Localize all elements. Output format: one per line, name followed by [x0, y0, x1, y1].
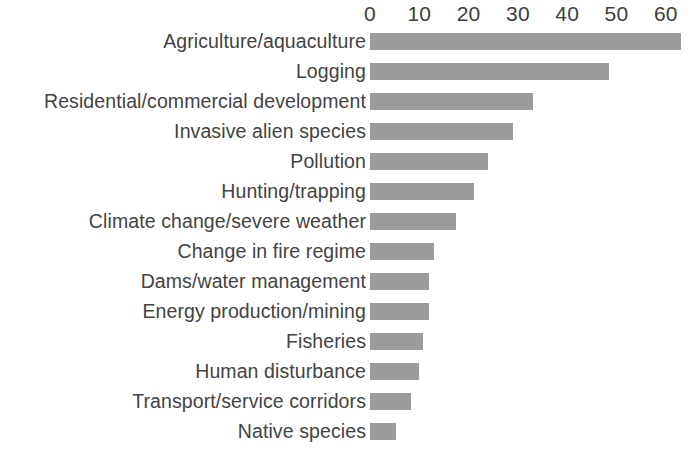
bar: [370, 333, 423, 350]
bar-row: Hunting/trapping: [0, 178, 691, 208]
category-label: Energy production/mining: [142, 298, 366, 328]
x-axis-tick-label: 30: [506, 2, 530, 26]
category-label: Transport/service corridors: [132, 388, 366, 418]
category-label: Residential/commercial development: [44, 88, 366, 118]
bar-row: Logging: [0, 58, 691, 88]
category-label: Hunting/trapping: [221, 178, 366, 208]
bar-row: Energy production/mining: [0, 298, 691, 328]
x-axis-tick-label: 40: [555, 2, 579, 26]
x-axis: 0102030405060: [0, 0, 691, 28]
bar: [370, 93, 533, 110]
bar-row: Fisheries: [0, 328, 691, 358]
category-label: Agriculture/aquaculture: [163, 28, 366, 58]
bar: [370, 63, 609, 80]
x-axis-tick-label: 0: [364, 2, 376, 26]
bar-row: Dams/water management: [0, 268, 691, 298]
x-axis-tick-label: 20: [457, 2, 481, 26]
bar: [370, 363, 419, 380]
bar: [370, 303, 429, 320]
bar: [370, 183, 474, 200]
bar: [370, 33, 681, 50]
bar: [370, 243, 434, 260]
bar-row: Transport/service corridors: [0, 388, 691, 418]
category-label: Pollution: [290, 148, 366, 178]
bar-row: Residential/commercial development: [0, 88, 691, 118]
category-label: Logging: [296, 58, 366, 88]
bar: [370, 153, 488, 170]
x-axis-tick-label: 50: [605, 2, 629, 26]
bar-chart: 0102030405060 Agriculture/aquacultureLog…: [0, 0, 691, 462]
bar-row: Native species: [0, 418, 691, 448]
bar: [370, 213, 456, 230]
category-label: Native species: [238, 418, 366, 448]
category-label: Human disturbance: [195, 358, 366, 388]
bar: [370, 393, 411, 410]
bar: [370, 423, 396, 440]
x-axis-tick-label: 60: [654, 2, 678, 26]
bar-row: Pollution: [0, 148, 691, 178]
category-label: Climate change/severe weather: [89, 208, 366, 238]
bar-row: Climate change/severe weather: [0, 208, 691, 238]
bar: [370, 123, 513, 140]
bar-row: Agriculture/aquaculture: [0, 28, 691, 58]
category-label: Invasive alien species: [174, 118, 366, 148]
bar: [370, 273, 429, 290]
category-label: Fisheries: [286, 328, 366, 358]
category-label: Dams/water management: [141, 268, 366, 298]
bar-row: Invasive alien species: [0, 118, 691, 148]
bar-row: Change in fire regime: [0, 238, 691, 268]
x-axis-tick-label: 10: [407, 2, 431, 26]
plot-area: Agriculture/aquacultureLoggingResidentia…: [0, 28, 691, 462]
category-label: Change in fire regime: [177, 238, 366, 268]
bar-row: Human disturbance: [0, 358, 691, 388]
